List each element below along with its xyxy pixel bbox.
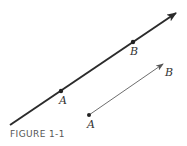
point-a-vector-start — [87, 113, 91, 117]
figure-1-1-diagram: B A A B — [0, 0, 187, 146]
vector-ab — [89, 64, 163, 115]
label-a-vector: A — [86, 118, 95, 131]
point-a-on-line — [59, 89, 63, 93]
point-b-on-line — [131, 40, 135, 44]
label-b-vector: B — [164, 66, 173, 79]
label-b-line: B — [129, 45, 138, 58]
figure-caption: FIGURE 1-1 — [10, 129, 65, 139]
line-ab — [10, 13, 176, 125]
label-a-line: A — [58, 94, 67, 107]
